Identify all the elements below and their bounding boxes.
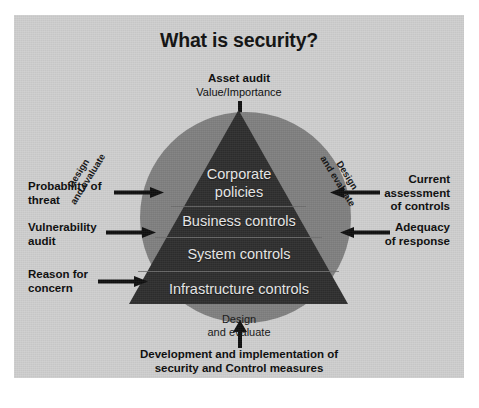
callout-probability-of-threat: Probability of threat	[28, 180, 101, 207]
bottom-caption: Development and implementation of securi…	[14, 348, 464, 375]
tier-divider-3	[138, 271, 339, 272]
arrow-right-icon-3	[98, 276, 148, 287]
callout-adequacy-of-response: Adequacy of response	[385, 221, 450, 248]
bottom-caption-line2: security and Control measures	[14, 362, 464, 376]
tier-divider-2	[155, 237, 322, 238]
callout-reason-for-concern: Reason for concern	[28, 268, 88, 295]
callout-line2: concern	[28, 282, 88, 296]
callout-vulnerability-audit: Vulnerability audit	[28, 221, 97, 248]
arrow-right-icon-1	[114, 187, 164, 198]
callout-line2: of response	[385, 235, 450, 249]
bottom-caption-line1: Development and implementation of	[14, 348, 464, 362]
callout-current-assessment-of-controls: Current assessment of controls	[384, 173, 450, 214]
callout-line1: Probability of	[28, 180, 101, 194]
arrow-up-icon	[233, 320, 247, 348]
tier-divider-1	[171, 206, 306, 207]
callout-line1: Vulnerability	[28, 221, 97, 235]
tier-label-system-controls: System controls	[14, 246, 464, 263]
arrow-right-icon-2	[106, 227, 156, 238]
callout-line2: assessment	[384, 187, 450, 201]
figure-panel: What is security? Asset audit Value/Impo…	[14, 15, 464, 378]
arrow-left-icon-1	[330, 187, 380, 198]
callout-line2: threat	[28, 194, 101, 208]
callout-line1: Adequacy	[385, 221, 450, 235]
callout-line2: audit	[28, 235, 97, 249]
callout-line1: Reason for	[28, 268, 88, 282]
arrow-left-icon-2	[340, 227, 390, 238]
callout-line3: of controls	[384, 200, 450, 214]
callout-line1: Current	[384, 173, 450, 187]
